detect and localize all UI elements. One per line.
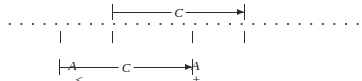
- arrowhead-right-icon: [185, 64, 192, 70]
- tick-mark-a-plus-c: [192, 31, 193, 43]
- measure-arrow-top: C: [112, 4, 245, 20]
- tick-mark-b-plus-c: [244, 31, 245, 43]
- measure-bottom-label: C: [119, 61, 134, 74]
- measure-bottom-right-bar: [192, 59, 193, 75]
- measure-top-label: C: [171, 6, 186, 19]
- dotted-number-line: [0, 23, 362, 25]
- tick-mark-a: [60, 31, 61, 43]
- measure-arrow-bottom: C: [59, 59, 193, 75]
- inequality-number-line-figure: C A < B A + C < B + C C: [0, 0, 362, 81]
- arrowhead-right-icon: [237, 9, 244, 15]
- tick-mark-b: [112, 31, 113, 43]
- measure-top-right-bar: [244, 4, 245, 20]
